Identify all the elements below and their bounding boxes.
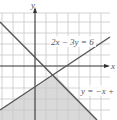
graph: y x 2x − 3y = 6 y = −x + [0,0,117,120]
y-axis-label: y [30,0,35,10]
x-axis-arrow-icon [104,64,110,68]
shaded-region [0,75,97,120]
line2-label: y = −x + [80,86,114,96]
line1-label: 2x − 3y = 6 [51,37,94,47]
x-axis-label: x [110,61,115,71]
